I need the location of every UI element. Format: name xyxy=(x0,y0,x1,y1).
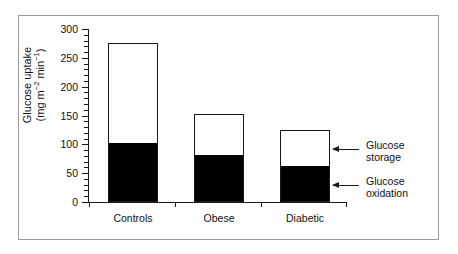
x-axis-line xyxy=(88,202,346,203)
y-axis-minor-tick xyxy=(84,133,88,134)
glucose-storage-label-line2: storage xyxy=(366,151,401,163)
y-axis-title-line1: Glucose uptake xyxy=(21,47,33,123)
bar-obese xyxy=(194,114,244,202)
y-units-mid: min xyxy=(34,61,46,82)
y-axis-minor-tick xyxy=(84,110,88,111)
glucose-oxidation-arrow xyxy=(333,185,359,186)
y-axis-minor-tick xyxy=(84,41,88,42)
y-axis-tick-label-text: 250 xyxy=(46,53,78,63)
glucose-storage-arrow xyxy=(333,149,359,150)
bar-diabetic xyxy=(280,130,330,202)
y-axis-minor-tick xyxy=(84,139,88,140)
y-axis-tick-label-text: 150 xyxy=(46,111,78,121)
y-axis-tick-label-text: 300 xyxy=(46,24,78,34)
x-axis-label-obese: Obese xyxy=(179,212,259,224)
y-axis-minor-tick xyxy=(84,104,88,105)
y-axis-minor-tick xyxy=(84,81,88,82)
figure-container: Glucose uptake (mg m−2 min−1) 0501001502… xyxy=(0,0,458,254)
bar-segment-glucose-oxidation xyxy=(109,143,157,201)
y-axis-minor-tick xyxy=(84,64,88,65)
bar-segment-glucose-oxidation xyxy=(281,166,329,201)
y-axis-minor-tick xyxy=(84,75,88,76)
y-axis-tick-label-text: 200 xyxy=(46,82,78,92)
y-axis-minor-tick xyxy=(84,150,88,151)
y-axis-tick-label: 100 xyxy=(44,139,78,149)
glucose-storage-label: Glucose storage xyxy=(366,139,405,163)
y-axis-minor-tick xyxy=(84,167,88,168)
y-axis-minor-tick xyxy=(84,185,88,186)
y-units-exponent-2: −1 xyxy=(32,52,41,61)
y-axis-major-tick xyxy=(82,87,88,88)
y-axis-major-tick xyxy=(82,116,88,117)
x-axis-label-diabetic: Diabetic xyxy=(265,212,345,224)
y-axis-tick-label: 150 xyxy=(44,111,78,121)
plot-area: Glucose uptake (mg m−2 min−1) 0501001502… xyxy=(0,0,458,254)
y-units-suffix: ) xyxy=(34,49,46,53)
y-axis-tick-label: 200 xyxy=(44,82,78,92)
x-axis-tick xyxy=(89,202,90,207)
y-axis-major-tick xyxy=(82,144,88,145)
y-axis-minor-tick xyxy=(84,156,88,157)
y-axis-tick-label: 50 xyxy=(44,168,78,178)
x-axis-label-controls: Controls xyxy=(93,212,173,224)
y-axis-major-tick xyxy=(82,29,88,30)
glucose-oxidation-label-line2: oxidation xyxy=(366,187,408,199)
y-axis-major-tick xyxy=(82,202,88,203)
y-axis-tick-label: 0 xyxy=(44,197,78,207)
bar-controls xyxy=(108,43,158,202)
bar-segment-glucose-oxidation xyxy=(195,155,243,201)
y-axis-major-tick xyxy=(82,173,88,174)
x-axis-tick xyxy=(346,202,347,207)
y-axis-tick-label: 300 xyxy=(44,24,78,34)
y-axis-minor-tick xyxy=(84,162,88,163)
y-axis-line xyxy=(88,29,89,203)
x-axis-tick xyxy=(175,202,176,207)
y-axis-minor-tick xyxy=(84,121,88,122)
y-axis-minor-tick xyxy=(84,52,88,53)
y-axis-minor-tick xyxy=(84,92,88,93)
glucose-storage-label-line1: Glucose xyxy=(366,139,405,151)
y-axis-minor-tick xyxy=(84,46,88,47)
glucose-oxidation-label-line1: Glucose xyxy=(366,175,405,187)
y-axis-major-tick xyxy=(82,58,88,59)
y-axis-minor-tick xyxy=(84,35,88,36)
y-axis-minor-tick xyxy=(84,190,88,191)
y-axis-tick-label-text: 100 xyxy=(46,139,78,149)
y-axis-minor-tick xyxy=(84,69,88,70)
x-axis-tick xyxy=(261,202,262,207)
y-units-exponent-1: −2 xyxy=(32,82,41,91)
y-axis-minor-tick xyxy=(84,127,88,128)
glucose-oxidation-label: Glucose oxidation xyxy=(366,175,408,199)
y-axis-minor-tick xyxy=(84,179,88,180)
y-axis-tick-label-text: 0 xyxy=(46,197,78,207)
y-axis-minor-tick xyxy=(84,98,88,99)
y-axis-tick-label: 250 xyxy=(44,53,78,63)
y-axis-tick-label-text: 50 xyxy=(46,168,78,178)
y-axis-minor-tick xyxy=(84,196,88,197)
